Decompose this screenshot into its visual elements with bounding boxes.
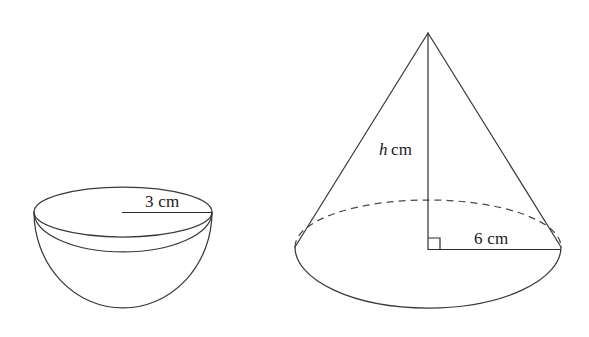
hemisphere-bowl-figure: 3 cm: [34, 187, 212, 308]
bowl-outer-body-arc: [34, 212, 212, 308]
cone-right-slant-edge: [428, 33, 561, 247]
cone-radius-label: 6 cm: [474, 229, 508, 248]
bowl-inner-wall-arc: [34, 212, 212, 252]
cone-height-label-group: h cm: [379, 140, 412, 159]
right-angle-marker: [428, 238, 440, 250]
bowl-radius-label: 3 cm: [145, 192, 179, 211]
cone-figure: h cm 6 cm: [295, 33, 561, 308]
cone-height-units-label: cm: [391, 140, 412, 159]
cone-height-variable-label: h: [379, 140, 388, 159]
geometry-figure-canvas: 3 cm h cm 6 cm: [0, 0, 589, 337]
cone-base-front-arc: [295, 247, 561, 308]
